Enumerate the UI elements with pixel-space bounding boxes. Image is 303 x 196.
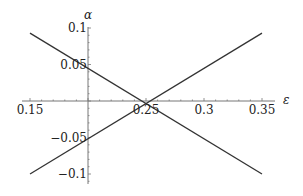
y-tick-label: −0.05 [50, 131, 87, 145]
x-tick-label: 0.15 [17, 103, 44, 117]
x-tick-label: 0.35 [249, 103, 276, 117]
x-tick-label: 0.25 [133, 103, 160, 117]
y-axis-label: α [84, 8, 92, 22]
y-tick-label: 0.05 [60, 58, 87, 72]
y-tick-label: 0.1 [68, 21, 87, 35]
chart: 0.150.250.30.350.10.05−0.05−0.1εα [0, 0, 303, 196]
labels: 0.150.250.30.350.10.05−0.05−0.1εα [17, 8, 290, 181]
x-axis-label: ε [283, 93, 289, 107]
x-tick-label: 0.3 [194, 103, 213, 117]
y-tick-label: −0.1 [58, 167, 87, 181]
